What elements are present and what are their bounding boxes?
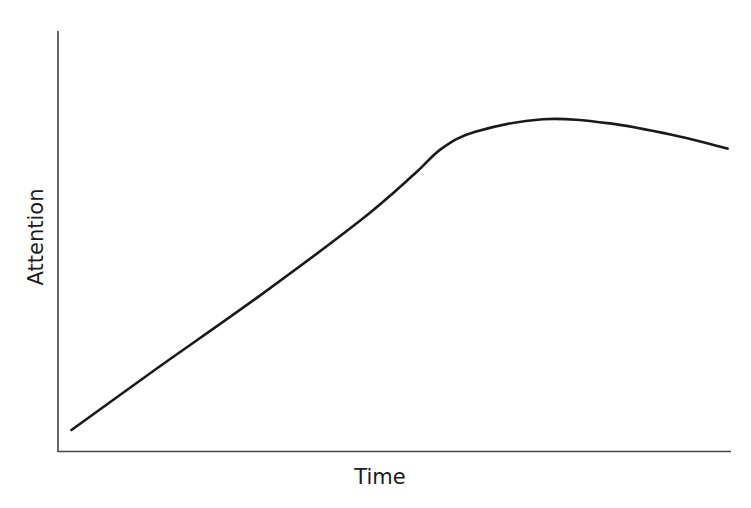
attention-curve [72, 119, 728, 430]
y-axis-label: Attention [24, 189, 48, 286]
x-axis-label: Time [353, 465, 405, 489]
line-chart: Time Attention [0, 0, 751, 508]
